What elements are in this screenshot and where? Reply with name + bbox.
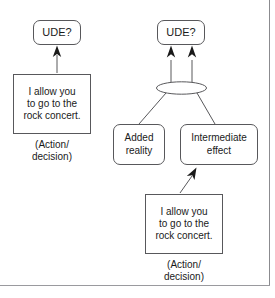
line-added-reality-to-and xyxy=(139,93,166,124)
frame-border-bottom xyxy=(0,285,270,286)
node-ude-left: UDE? xyxy=(33,20,81,45)
node-action-left: I allow you to go to the rock concert. xyxy=(13,74,91,134)
node-action-right: I allow you to go to the rock concert. xyxy=(145,194,223,254)
node-intermediate-effect-label: Intermediate effect xyxy=(191,132,247,156)
node-ude-right: UDE? xyxy=(157,20,205,45)
frame-border-right xyxy=(269,0,270,286)
arrow-right-action-to-intermediate-effect xyxy=(180,168,197,194)
node-added-reality: Added reality xyxy=(113,124,165,165)
node-ude-right-label: UDE? xyxy=(166,26,195,39)
line-intermediate-effect-to-and xyxy=(197,93,215,124)
arrow-left-action-to-ude xyxy=(53,46,61,74)
node-added-reality-label: Added reality xyxy=(125,132,154,156)
caption-right: (Action/ decision) xyxy=(140,259,228,283)
node-ude-left-label: UDE? xyxy=(42,26,71,39)
arrow-right-and-to-ude-left xyxy=(167,46,175,85)
and-connector-ellipse xyxy=(157,82,207,94)
caption-left: (Action/ decision) xyxy=(8,139,96,163)
arrow-right-and-to-ude-right xyxy=(188,46,196,85)
node-action-right-label: I allow you to go to the rock concert. xyxy=(155,206,212,243)
figure-canvas: UDE? I allow you to go to the rock conce… xyxy=(0,0,275,298)
node-intermediate-effect: Intermediate effect xyxy=(180,124,258,165)
node-action-left-label: I allow you to go to the rock concert. xyxy=(23,86,80,123)
